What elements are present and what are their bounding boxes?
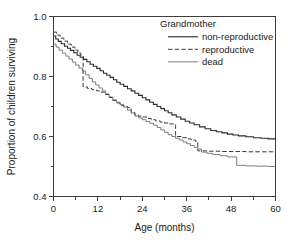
chart-legend: Grandmothernon-reproductivereproductived…: [160, 18, 273, 67]
x-axis-ticks: [54, 197, 276, 202]
x-tick-label: 0: [51, 203, 56, 214]
y-tick-label: 0.8: [33, 71, 46, 82]
legend-label-dead: dead: [202, 56, 223, 67]
x-tick-label: 60: [270, 203, 281, 214]
legend-title: Grandmother: [160, 18, 216, 29]
y-tick-label: 1.0: [33, 11, 46, 22]
y-tick-label: 0.6: [33, 131, 46, 142]
y-axis-title: Proportion of children surviving: [6, 38, 17, 175]
x-tick-label: 36: [181, 203, 192, 214]
y-axis-ticks: [49, 17, 54, 197]
legend-label-reproductive: reproductive: [202, 44, 254, 55]
y-axis-tick-labels: 0.40.60.81.0: [33, 11, 46, 202]
x-axis-title: Age (months): [134, 222, 194, 233]
survival-chart-figure: 0.40.60.81.0 01224364860 Grandmothernon-…: [0, 0, 294, 243]
x-axis-tick-labels: 01224364860: [51, 203, 281, 214]
x-tick-label: 24: [137, 203, 148, 214]
chart-canvas: 0.40.60.81.0 01224364860 Grandmothernon-…: [0, 0, 294, 243]
legend-label-non-reproductive: non-reproductive: [202, 31, 273, 42]
series-line-dead: [54, 44, 276, 166]
x-tick-label: 48: [226, 203, 237, 214]
x-tick-label: 12: [93, 203, 104, 214]
y-tick-label: 0.4: [33, 191, 46, 202]
